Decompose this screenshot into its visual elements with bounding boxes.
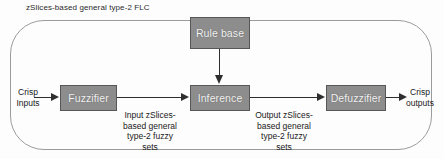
connector-output-line (386, 97, 400, 98)
arrow-right-icon-input (51, 93, 59, 101)
block-defuzzifier[interactable]: Defuzzifier (326, 85, 386, 111)
block-inference[interactable]: Inference (190, 85, 250, 111)
arrow-right-icon-fuzzifier-to-inference (181, 93, 189, 101)
crisp-outputs-label: Crisp outputs (402, 87, 438, 108)
input-fuzzy-sets-label: Input zSlices- based general type-2 fuzz… (117, 110, 183, 152)
output-fuzzy-sets-label: Output zSlices- based general type-2 fuz… (249, 110, 319, 152)
connector-inference-to-defuzzifier (250, 97, 318, 98)
flc-title: zSlices-based general type-2 FLC (26, 3, 150, 12)
connector-rulebase-to-inference (219, 49, 220, 76)
arrow-down-icon-rulebase-to-inference (215, 75, 223, 84)
connector-input-line (34, 97, 52, 98)
connector-fuzzifier-to-inference (117, 97, 182, 98)
arrow-right-icon-inference-to-defuzzifier (317, 93, 325, 101)
block-rule-base[interactable]: Rule base (190, 17, 250, 49)
block-fuzzifier[interactable]: Fuzzifier (60, 85, 117, 111)
diagram-canvas: zSlices-based general type-2 FLC Crisp I… (0, 0, 444, 159)
